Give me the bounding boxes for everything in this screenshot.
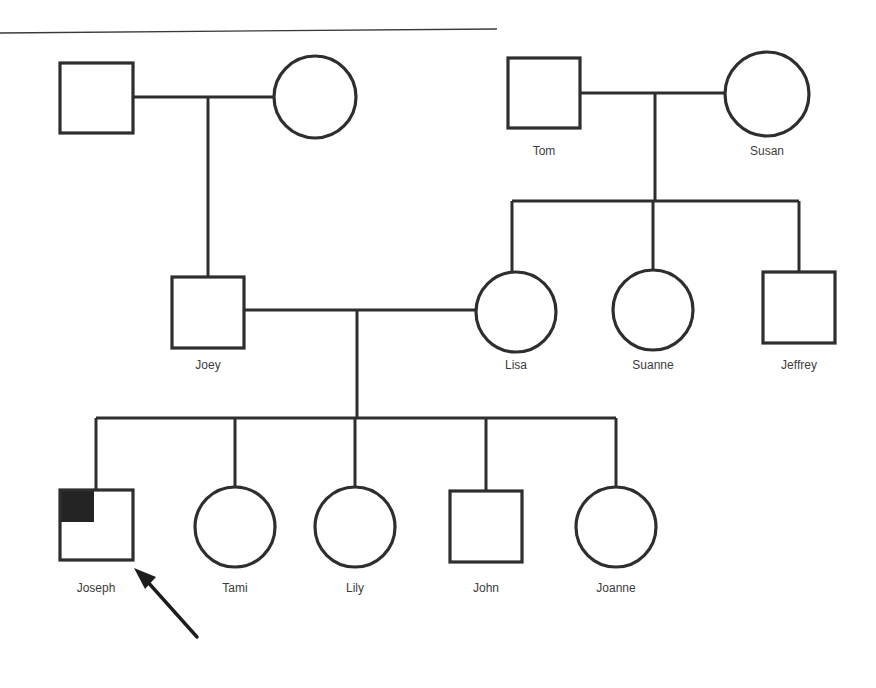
proband-arrow-icon (134, 568, 197, 637)
person-john[interactable]: John (450, 491, 522, 595)
affected-quadrant-fill (60, 490, 94, 522)
male-square-shape (450, 491, 522, 562)
person-label-tami: Tami (222, 581, 247, 595)
female-circle-shape (274, 56, 356, 138)
person-label-lily: Lily (346, 581, 364, 595)
male-square-shape (60, 63, 133, 133)
union-joey-lisa (244, 310, 476, 418)
union-tom-susan (580, 93, 725, 201)
person-label-joey: Joey (195, 358, 220, 372)
female-circle-shape (315, 487, 395, 567)
sibship-tom-susan-children (512, 201, 799, 272)
male-square-shape (508, 58, 580, 128)
sibship-joey-lisa-children (96, 418, 616, 491)
pedigree-diagram-canvas: Tom Susan Joey Lisa Suanne (0, 0, 876, 688)
person-label-john: John (473, 581, 499, 595)
person-susan[interactable]: Susan (725, 52, 809, 158)
person-g1-father-left[interactable] (60, 63, 133, 133)
person-jeffrey[interactable]: Jeffrey (763, 272, 835, 372)
person-label-lisa: Lisa (505, 358, 527, 372)
female-circle-shape (576, 487, 656, 567)
person-joey[interactable]: Joey (172, 277, 244, 372)
female-circle-shape (725, 52, 809, 136)
person-joanne[interactable]: Joanne (576, 487, 656, 595)
person-joseph[interactable]: Joseph (60, 490, 133, 595)
person-label-jeffrey: Jeffrey (781, 358, 817, 372)
person-label-tom: Tom (533, 144, 556, 158)
male-square-shape (172, 277, 244, 348)
person-tami[interactable]: Tami (195, 487, 275, 595)
top-divider-rule (0, 29, 497, 33)
person-label-susan: Susan (750, 144, 784, 158)
person-lily[interactable]: Lily (315, 487, 395, 595)
person-label-joanne: Joanne (596, 581, 636, 595)
pedigree-svg: Tom Susan Joey Lisa Suanne (0, 0, 876, 688)
female-circle-shape (476, 272, 556, 352)
person-label-suanne: Suanne (632, 358, 674, 372)
person-suanne[interactable]: Suanne (613, 270, 693, 372)
proband-arrow-shaft (146, 580, 197, 637)
union-g1-left (133, 97, 274, 277)
male-square-shape (763, 272, 835, 343)
person-label-joseph: Joseph (77, 581, 116, 595)
female-circle-shape (195, 487, 275, 567)
person-lisa[interactable]: Lisa (476, 272, 556, 372)
person-tom[interactable]: Tom (508, 58, 580, 158)
female-circle-shape (613, 270, 693, 350)
person-g1-mother-left[interactable] (274, 56, 356, 138)
